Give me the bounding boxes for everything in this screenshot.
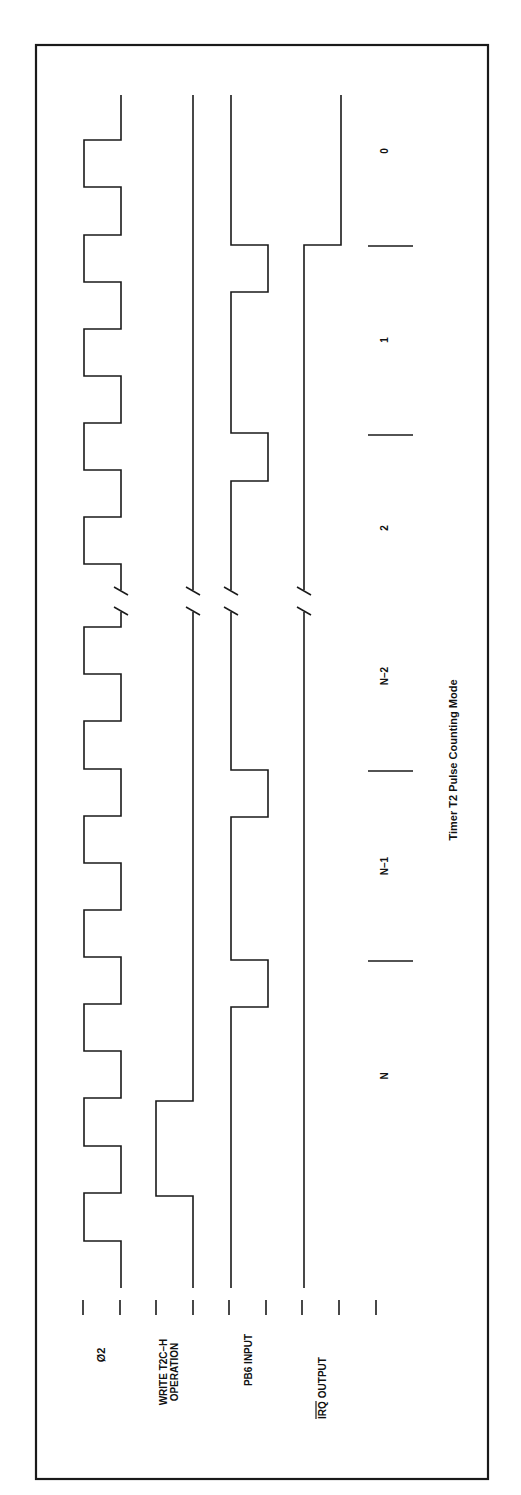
- break-markers: [114, 587, 311, 615]
- label-write-line1: WRITE T2C–H: [158, 1339, 169, 1406]
- label-phi2: Ø2: [95, 1348, 107, 1363]
- pb6-input-waveform: [231, 95, 268, 1288]
- timing-diagram: Ø2 WRITE T2C–H OPERATION PB6 INPUT IRQ O…: [0, 0, 521, 1495]
- phi2-clock-waveform: [84, 95, 121, 1288]
- label-irq-name: IRQ: [317, 1401, 328, 1419]
- count-label-1: 1: [379, 337, 390, 343]
- label-irq-suffix: OUTPUT: [317, 1357, 328, 1401]
- count-label-n-minus-1: N–1: [379, 856, 390, 875]
- signal-labels: Ø2 WRITE T2C–H OPERATION PB6 INPUT IRQ O…: [95, 1334, 328, 1419]
- count-labels: N N–1 N–2 2 1 0: [379, 148, 390, 1080]
- write-operation-waveform: [156, 95, 193, 1288]
- count-dividers: [368, 246, 413, 961]
- label-pb6: PB6 INPUT: [243, 1334, 254, 1386]
- count-label-0: 0: [379, 148, 390, 154]
- count-label-n-minus-2: N–2: [379, 666, 390, 685]
- label-irq: IRQ OUTPUT: [316, 1357, 328, 1419]
- count-label-2: 2: [379, 525, 390, 531]
- diagram-title: Timer T2 Pulse Counting Mode: [447, 679, 459, 840]
- level-ticks: [83, 1300, 376, 1315]
- irq-output-waveform: [304, 95, 341, 1288]
- label-write-line2: OPERATION: [169, 1343, 180, 1402]
- diagram-frame: [36, 45, 488, 1479]
- count-label-n: N: [379, 1072, 390, 1079]
